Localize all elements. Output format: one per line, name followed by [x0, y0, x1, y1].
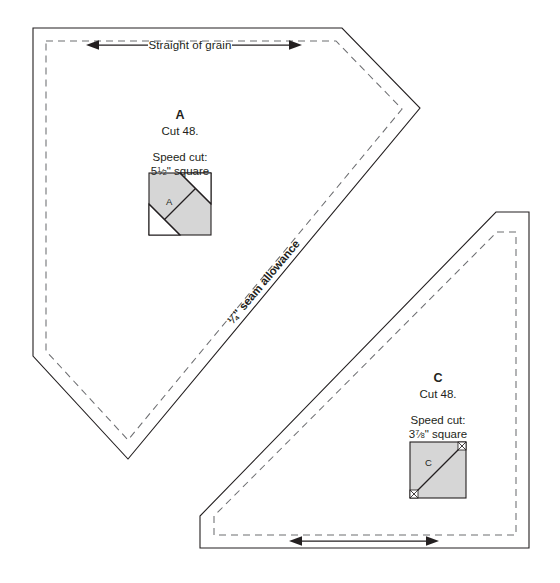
piece-c-corner-mark-bottom-left — [410, 490, 418, 498]
piece-a-size-unit: " square — [167, 165, 209, 177]
piece-c-letter: C — [433, 371, 442, 386]
piece-c-square-inner-label: C — [425, 457, 432, 469]
piece-a-speed-cut-diagram — [149, 173, 211, 235]
piece-a-letter: A — [175, 108, 184, 123]
piece-c-cut-label: Cut 48. — [419, 387, 456, 401]
piece-a-speed-cut-heading: Speed cut: — [153, 150, 208, 164]
pattern-sheet: Straight of grain A Cut 48. Speed cut: 5… — [0, 0, 560, 583]
straight-of-grain-label-a: Straight of grain — [149, 38, 232, 52]
piece-c-speed-cut-heading: Speed cut: — [411, 413, 466, 427]
piece-c-size-unit: " square — [425, 428, 467, 440]
piece-a-square-inner-label: A — [166, 196, 172, 208]
piece-c-corner-mark-top-right — [458, 442, 466, 450]
piece-c-speed-cut-diagram — [410, 442, 466, 498]
piece-c-speed-cut-size: 37⁄8" square — [409, 427, 467, 441]
pattern-vector-layer — [0, 0, 560, 583]
piece-a-speed-cut-size: 51⁄2" square — [151, 164, 209, 178]
piece-a-cut-label: Cut 48. — [161, 124, 198, 138]
